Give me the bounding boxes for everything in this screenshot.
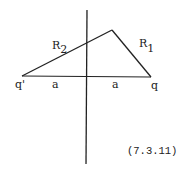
r1-label: R1 [139,37,154,55]
image-charge-diagram: R2 R1 q' a a q (7.3.11) [0,0,182,177]
q-label: q [151,79,158,92]
vertical-plane-line [86,10,87,164]
r1-subscript: 1 [147,42,154,55]
baseline-q-prime-to-q [22,76,151,77]
q-prime-label: q' [15,78,25,91]
equation-number: (7.3.11) [127,145,177,157]
a-right-label: a [112,78,119,91]
r2-subscript: 2 [60,43,67,56]
r2-label: R2 [52,39,67,56]
a-left-label: a [52,78,59,91]
